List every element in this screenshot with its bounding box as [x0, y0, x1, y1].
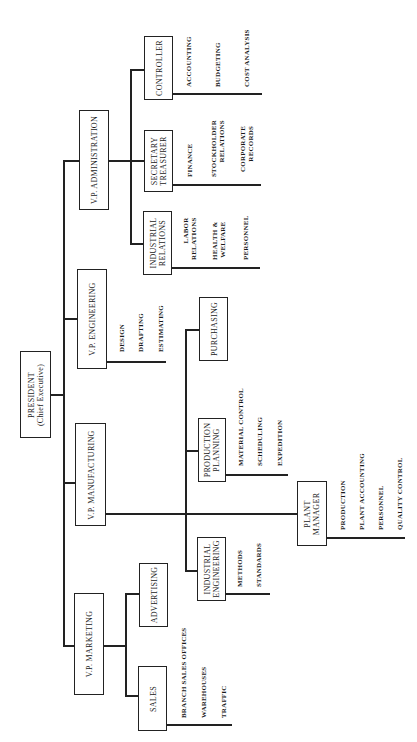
controller-title: CONTROLLER [154, 40, 163, 96]
sectreas-items-line [173, 184, 261, 186]
connector [185, 329, 199, 331]
purchasing-title: PURCHASING [209, 302, 218, 356]
mkt-subtrunk [125, 593, 127, 696]
industrial-relations-box: INDUSTRIALRELATIONS [143, 211, 172, 275]
vp-manufacturing-title: V.P. MANUFACTURING [86, 430, 95, 519]
president-box: PRESIDENT(Chief Executive) [20, 351, 51, 438]
function-item: WAREHOUSES [201, 667, 209, 718]
connector [63, 160, 79, 162]
function-item: STANDARDS [256, 543, 264, 587]
connector [130, 243, 143, 245]
vp-engineering-box: V.P. ENGINEERING [77, 269, 107, 369]
prodplan-items-line [226, 474, 288, 476]
connector [104, 645, 125, 647]
connector [63, 318, 77, 320]
vp-marketing-title: V.P. MARKETING [85, 611, 94, 678]
main-trunk [63, 160, 65, 646]
president-title: PRESIDENT [27, 372, 36, 418]
industrial-engineering-box: INDUSTRIALENGINEERING [197, 537, 226, 601]
function-item: PERSONNEL [378, 485, 386, 530]
vp-administration-box: V.P. ADMINISTRATION [79, 110, 109, 210]
box-label-line: SECRETARY [150, 137, 159, 185]
box-label-line: PRODUCTION [203, 423, 212, 478]
advertising-box: ADVERTISING [139, 563, 168, 627]
connector [63, 645, 74, 647]
function-item: BUDGETING [215, 42, 223, 87]
production-planning-box: PRODUCTIONPLANNING [198, 418, 226, 482]
connector [125, 695, 138, 697]
function-item: BRANCH SALES OFFICES [181, 628, 189, 718]
connector [185, 450, 198, 452]
function-item: FINANCE [187, 144, 195, 177]
engineering-items-line [107, 361, 166, 363]
sales-box: SALES [138, 666, 167, 731]
function-item: LABORRELATIONS [183, 217, 198, 260]
box-label-line: MANAGER [312, 492, 321, 535]
vp-marketing-box: V.P. MARKETING [74, 593, 104, 695]
controller-items-line [173, 93, 262, 95]
plant-manager-box: PLANTMANAGER [297, 481, 327, 546]
controller-box: CONTROLLER [144, 36, 173, 100]
box-label-line: ENGINEERING [212, 540, 221, 598]
advertising-title: ADVERTISING [149, 567, 158, 624]
function-item: QUALITY CONTROL [397, 457, 405, 530]
function-item: EXPEDITION [277, 420, 285, 466]
indeng-items-line [226, 593, 270, 595]
connector [130, 69, 144, 71]
connector [185, 570, 197, 572]
function-item: PLANT ACCOUNTING [359, 453, 367, 530]
box-label-line: PLANNING [212, 428, 221, 471]
function-item: MATERIAL CONTROL [238, 388, 246, 466]
function-item: COST ANALYSIS [244, 29, 252, 87]
connector [63, 482, 75, 484]
connector [109, 160, 144, 162]
function-item: CORPORATERECORDS [240, 126, 255, 172]
function-item: SCHEDULING [257, 417, 265, 466]
vp-administration-title: V.P. ADMINISTRATION [90, 116, 99, 204]
purchasing-box: PURCHASING [199, 297, 228, 361]
admin-subtrunk [130, 69, 132, 244]
box-label-line: TREASURER [159, 136, 168, 185]
box-label-line: INDUSTRIAL [149, 218, 158, 269]
function-item: METHODS [237, 550, 245, 587]
plant-items-line [327, 537, 405, 539]
sales-items-line [167, 724, 232, 726]
box-label-line: RELATIONS [158, 220, 167, 266]
vp-manufacturing-box: V.P. MANUFACTURING [75, 423, 106, 526]
function-item: ACCOUNTING [186, 36, 194, 87]
function-item: TRAFFIC [221, 685, 229, 718]
connector [125, 593, 139, 595]
function-item: STOCKHOLDERRELATIONS [211, 120, 226, 177]
function-item: ESTIMATING [158, 305, 166, 352]
function-item: DESIGN [119, 324, 127, 352]
secretary-treasurer-box: SECRETARYTREASURER [144, 130, 173, 192]
function-item: DRAFTING [138, 313, 146, 352]
function-item: PERSONNEL [243, 215, 251, 260]
org-chart: PRESIDENT(Chief Executive) V.P. ADMINIST… [0, 0, 417, 742]
function-item: PRODUCTION [340, 480, 348, 530]
indrel-items-line [172, 267, 260, 269]
president-subtitle: (Chief Executive) [36, 363, 45, 425]
vp-engineering-title: V.P. ENGINEERING [88, 282, 97, 355]
function-item: HEALTH &WELFARE [212, 222, 227, 261]
box-label-line: INDUSTRIAL [203, 544, 212, 595]
box-label-line: PLANT [303, 500, 312, 527]
sales-title: SALES [148, 686, 157, 712]
connector [106, 513, 297, 515]
